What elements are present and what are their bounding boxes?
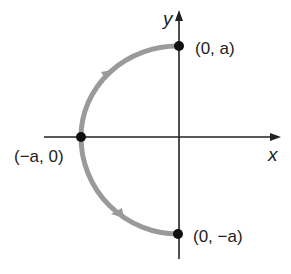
diagram-canvas [0, 0, 291, 274]
point-label-top: (0, a) [195, 40, 235, 57]
point-0-neg-a [173, 229, 183, 239]
y-axis-arrow-icon [175, 10, 183, 21]
point-label-bottom: (0, −a) [193, 228, 243, 245]
parametric-semicircle-diagram: y x (0, a) (−a, 0) (0, −a) [0, 0, 291, 274]
y-axis-label: y [163, 9, 173, 28]
x-axis-label: x [268, 145, 278, 164]
point-neg-a-0 [76, 132, 86, 142]
semicircle-curve [81, 46, 179, 234]
point-0-a [174, 41, 184, 51]
point-label-left: (−a, 0) [14, 148, 64, 165]
x-axis-arrow-icon [270, 133, 281, 141]
